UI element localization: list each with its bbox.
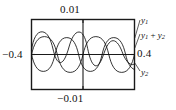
axis-label-left: −0.4: [2, 49, 23, 60]
axis-label-top: 0.01: [60, 4, 80, 15]
axis-label-bottom: −0.01: [57, 93, 83, 104]
curve-label-sum: y1 + y2: [141, 31, 165, 41]
curve-label-y1-subscript: 1: [145, 18, 148, 25]
curve-label-sum-operator: +: [148, 30, 158, 40]
curve-label-sum-second-subscript: 2: [162, 33, 165, 40]
curve-label-y2-subscript: 2: [145, 70, 148, 77]
curve-label-y1: y1: [141, 16, 148, 26]
curve-label-y2: y2: [141, 68, 148, 78]
axis-label-right: 0.4: [137, 48, 151, 59]
